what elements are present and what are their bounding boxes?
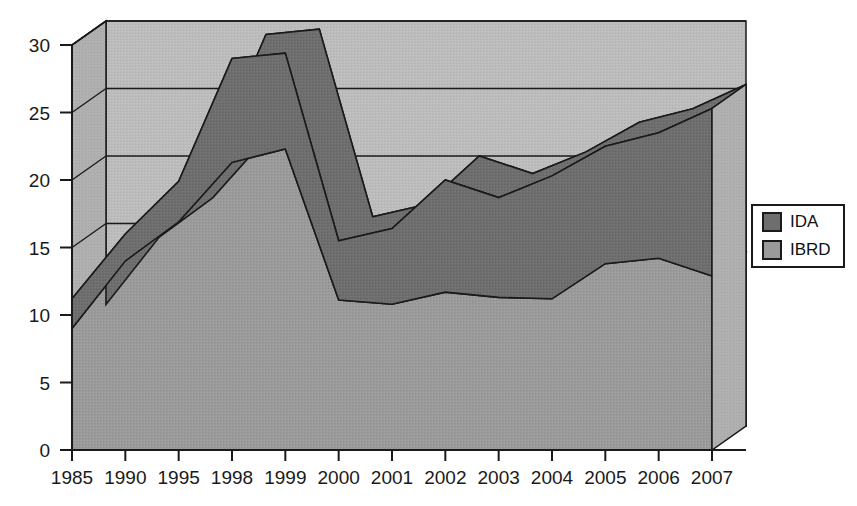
y-tick-label-20: 20	[29, 170, 50, 191]
x-tick-label-1985: 1985	[51, 467, 93, 488]
y-tick-label-25: 25	[29, 103, 50, 124]
x-tick-label-1990: 1990	[104, 467, 146, 488]
y-tick-label-5: 5	[39, 373, 50, 394]
legend-label-ibrd: IBRD	[790, 240, 831, 259]
legend-label-ida: IDA	[790, 212, 819, 231]
y-tick-label-10: 10	[29, 305, 50, 326]
y-tick-label-0: 0	[39, 440, 50, 461]
x-tick-label-2005: 2005	[584, 467, 626, 488]
chart-container: 302520151050 198519901995199819992000200…	[0, 0, 857, 506]
plot-area	[72, 21, 746, 450]
x-tick-label-2003: 2003	[478, 467, 520, 488]
x-tick-label-2002: 2002	[424, 467, 466, 488]
y-axis-labels: 302520151050	[29, 35, 72, 461]
legend-swatch-ida[interactable]	[763, 213, 781, 231]
x-tick-label-1999: 1999	[264, 467, 306, 488]
legend-swatch-ibrd[interactable]	[763, 241, 781, 259]
y-tick-label-15: 15	[29, 238, 50, 259]
x-tick-label-2007: 2007	[691, 467, 733, 488]
x-tick-label-2000: 2000	[318, 467, 360, 488]
x-tick-label-1995: 1995	[158, 467, 200, 488]
x-tick-label-1998: 1998	[211, 467, 253, 488]
legend[interactable]: IDAIBRD	[752, 205, 844, 267]
y-tick-label-30: 30	[29, 35, 50, 56]
x-axis-labels: 1985199019951998199920002001200220032004…	[51, 450, 733, 488]
area-chart: 302520151050 198519901995199819992000200…	[0, 0, 857, 506]
x-tick-label-2001: 2001	[371, 467, 413, 488]
right-end-cap	[712, 84, 746, 450]
x-tick-label-2004: 2004	[531, 467, 574, 488]
x-tick-label-2006: 2006	[638, 467, 680, 488]
